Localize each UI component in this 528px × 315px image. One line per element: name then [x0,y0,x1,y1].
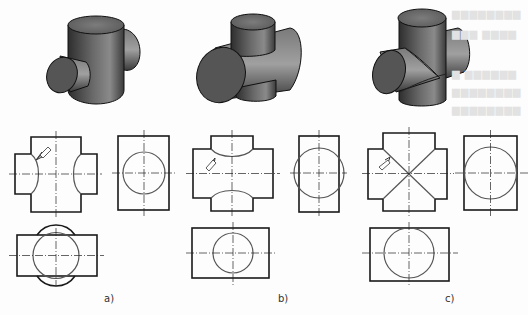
background-text: ▆ ▆▆▆▆▆▆ [452,68,517,79]
front-view-b [186,130,280,217]
background-text: ▆▆▆▆▆▆▆▆ [452,86,522,97]
pointer-arrow-icon [379,157,390,170]
pointer-arrow-icon [36,147,51,160]
panel-label-a: a) [104,293,114,304]
top-view-c [362,222,458,287]
top-view-a [9,225,104,286]
panel-b [186,14,347,285]
panel-c [362,9,528,287]
front-view-c [362,127,454,217]
panel-label-b: b) [278,293,288,304]
drawing-svg [0,0,528,315]
panel-label-c: c) [445,293,454,304]
background-text: ▆▆▆▆▆▆▆▆ [452,8,522,19]
side-view-a [112,130,176,216]
side-view-b [290,130,347,218]
front-view-a [9,131,102,218]
background-text: ▆▆▆ ▆▆▆▆ [452,28,517,39]
pointer-arrow-icon [206,158,216,171]
figure-canvas: ▆▆▆▆▆▆▆▆ ▆▆▆ ▆▆▆▆ ▆ ▆▆▆▆▆▆ ▆▆▆▆▆▆▆▆ ▆▆▆▆… [0,0,528,315]
panel-a [9,16,176,286]
background-text: ▆▆▆▆▆▆▆▆ [452,104,522,115]
top-view-b [186,222,276,285]
side-view-c [455,130,528,218]
isometric-view-b [190,14,302,109]
isometric-view-a [42,16,140,104]
